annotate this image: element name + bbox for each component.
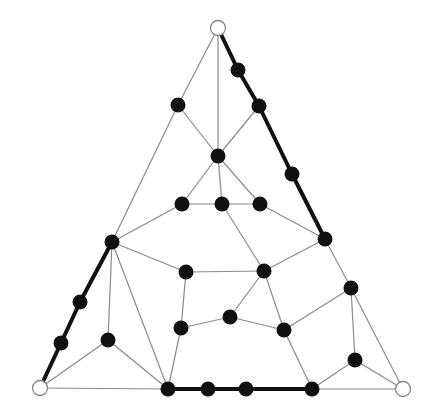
edge-thin [112,242,168,389]
graph-node [223,310,238,325]
edge-thin [351,288,355,360]
edge-thin [218,106,259,156]
corner-vertex [211,21,226,36]
edge-thin [181,272,186,328]
graph-node [252,99,267,114]
graph-node [175,197,190,212]
edge-thick [80,242,112,302]
graph-node [201,382,216,397]
graph-node [105,235,120,250]
graph-node [305,382,320,397]
graph-node [348,353,363,368]
edge-thin [168,328,181,389]
graph-node [257,264,272,279]
edge-thin [108,242,112,340]
edge-thin [178,28,218,105]
edge-thin [230,317,284,330]
graph-node [179,265,194,280]
edge-thin [112,242,186,272]
graph-node [231,63,246,78]
graph-node [54,336,69,351]
edge-thin [182,156,218,204]
graph-node [253,197,268,212]
graph-node [73,295,88,310]
edge-thick [292,174,325,239]
edge-thin [222,204,264,271]
edge-thin [186,271,264,272]
edge-thin [284,288,351,330]
corner-vertex [33,381,48,396]
corner-vertex [396,382,411,397]
edge-thin [112,105,178,242]
graph-node [285,167,300,182]
edge-thin [264,239,325,271]
edge-thin [312,360,355,389]
graph-node [171,98,186,113]
graph-node [277,323,292,338]
edge-thin [112,204,182,242]
graph-node [344,281,359,296]
edge-thin [264,271,284,330]
edge-thin [181,317,230,328]
graph-node [211,149,226,164]
graph-node [174,321,189,336]
edge-thick [259,106,292,174]
edge-thin [284,330,312,389]
edge-thin [40,388,168,389]
graph-node [318,232,333,247]
graph-node [161,382,176,397]
edge-thin [218,156,260,204]
edge-thin [178,105,218,156]
triangle-graph-diagram [0,0,436,420]
edge-thin [230,271,264,317]
graph-node [101,333,116,348]
graph-node [215,197,230,212]
graph-node [239,382,254,397]
edge-thin [325,239,351,288]
